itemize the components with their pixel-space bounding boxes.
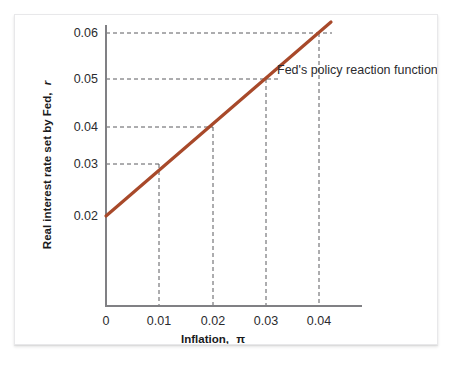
svg-text:Real interest rate set by Fed,: Real interest rate set by Fed, r (41, 80, 53, 249)
x-axis-title: Inflation, π (181, 333, 245, 344)
policy-reaction-function-annotation: Fed's policy reaction function (277, 63, 437, 77)
figure-card: 0.06 0.05 0.04 0.03 0.02 0 0.01 0.02 0.0… (14, 14, 438, 345)
x-axis-title-text: Inflation, (181, 333, 229, 344)
y-tick-label-005: 0.05 (74, 72, 98, 86)
horizontal-guide-lines (106, 33, 332, 164)
x-tick-label-002: 0.02 (201, 314, 225, 328)
x-tick-label-001: 0.01 (147, 314, 171, 328)
fed-policy-reaction-function-line (106, 22, 331, 216)
x-tick-label-003: 0.03 (254, 314, 278, 328)
x-axis-title-symbol: π (236, 333, 245, 344)
y-tick-label-004: 0.04 (74, 120, 98, 134)
y-tick-label-002: 0.02 (74, 209, 98, 223)
y-tick-label-003: 0.03 (74, 157, 98, 171)
y-axis-title-symbol: r (41, 80, 53, 85)
x-tick-label-0: 0 (103, 314, 110, 328)
y-axis-title: Real interest rate set by Fed, r (41, 80, 53, 249)
svg-text:Inflation, π: Inflation, π (181, 333, 245, 344)
y-tick-label-006: 0.06 (74, 26, 98, 40)
policy-reaction-function-chart: 0.06 0.05 0.04 0.03 0.02 0 0.01 0.02 0.0… (15, 15, 437, 344)
x-tick-label-004: 0.04 (307, 314, 331, 328)
y-axis-title-text: Real interest rate set by Fed, (41, 93, 53, 250)
x-tick-labels: 0 0.01 0.02 0.03 0.04 (103, 314, 332, 328)
y-tick-labels: 0.06 0.05 0.04 0.03 0.02 (74, 26, 98, 223)
